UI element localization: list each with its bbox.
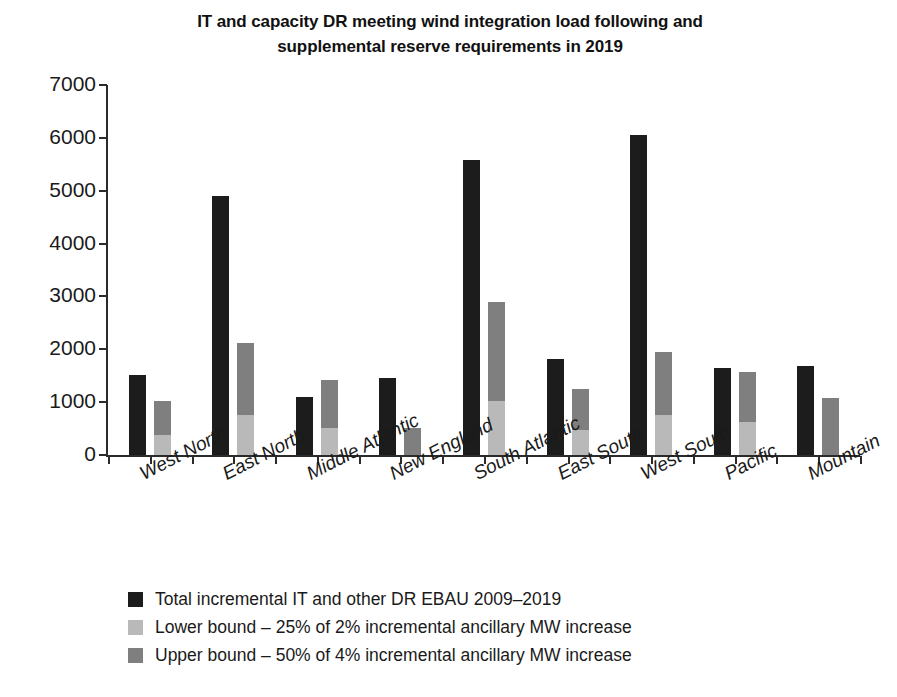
- bar-segment-upper-bound: [488, 302, 505, 401]
- x-axis-tick: [275, 456, 277, 464]
- legend-swatch-icon: [128, 592, 143, 607]
- y-axis-tick-label: 6000: [49, 125, 96, 149]
- bar-group: [359, 85, 443, 455]
- y-axis-tick-label: 5000: [49, 178, 96, 202]
- bar-group: [192, 85, 276, 455]
- x-axis-category-label: Pacific: [721, 465, 731, 485]
- bar-bounds-stacked: [154, 401, 171, 455]
- bar-segment-upper-bound: [822, 398, 839, 455]
- y-axis-tick: [99, 295, 107, 297]
- bar-group: [609, 85, 693, 455]
- x-axis-tick: [442, 456, 444, 464]
- x-axis-tick: [108, 456, 110, 464]
- x-axis-tick: [735, 456, 737, 464]
- chart-title-line-1: IT and capacity DR meeting wind integrat…: [150, 10, 750, 35]
- x-axis-tick: [693, 456, 695, 464]
- x-axis-tick: [192, 456, 194, 464]
- x-axis-tick: [776, 456, 778, 464]
- bar-group: [526, 85, 610, 455]
- x-axis-tick: [818, 456, 820, 464]
- bar-segment-lower-bound: [321, 428, 338, 455]
- bar-total-incremental: [212, 196, 229, 455]
- legend-swatch-icon: [128, 620, 143, 635]
- legend-item-label: Upper bound – 50% of 4% incremental anci…: [155, 645, 632, 666]
- x-axis-tick: [150, 456, 152, 464]
- bar-bounds-stacked: [739, 372, 756, 456]
- y-axis-tick: [99, 84, 107, 86]
- x-axis-tick: [568, 456, 570, 464]
- bar-total-incremental: [797, 366, 814, 455]
- x-axis-tick: [526, 456, 528, 464]
- legend-item-label: Total incremental IT and other DR EBAU 2…: [155, 589, 561, 610]
- x-axis-tick: [359, 456, 361, 464]
- x-axis-tick: [400, 456, 402, 464]
- bar-bounds-stacked: [488, 302, 505, 455]
- x-axis-tick: [860, 456, 862, 464]
- bar-total-incremental: [714, 368, 731, 455]
- x-axis-category-label: West North: [136, 465, 146, 485]
- y-axis-tick: [99, 190, 107, 192]
- x-axis-category-label: East South: [554, 465, 564, 485]
- y-axis-tick: [99, 348, 107, 350]
- bar-segment-upper-bound: [154, 401, 171, 435]
- chart-legend: Total incremental IT and other DR EBAU 2…: [128, 585, 728, 669]
- x-axis-category-label: Middle Atlantic: [303, 465, 313, 485]
- bar-bounds-stacked: [572, 389, 589, 455]
- bar-segment-lower-bound: [572, 430, 589, 455]
- bar-group: [776, 85, 860, 455]
- x-axis-tick: [484, 456, 486, 464]
- legend-item: Upper bound – 50% of 4% incremental anci…: [128, 641, 728, 669]
- bar-segment-lower-bound: [154, 435, 171, 455]
- y-axis-tick-label: 7000: [49, 72, 96, 96]
- y-axis-tick: [99, 243, 107, 245]
- chart-figure: IT and capacity DR meeting wind integrat…: [0, 0, 897, 697]
- bar-total-incremental: [630, 135, 647, 455]
- bar-segment-lower-bound: [488, 401, 505, 455]
- bar-segment-upper-bound: [572, 389, 589, 429]
- bar-segment-lower-bound: [237, 415, 254, 455]
- bar-group: [275, 85, 359, 455]
- y-axis-tick: [99, 137, 107, 139]
- bar-bounds-stacked: [321, 380, 338, 455]
- bar-total-incremental: [129, 375, 146, 455]
- bar-segment-lower-bound: [655, 415, 672, 455]
- bar-total-incremental: [547, 359, 564, 455]
- x-axis-tick: [651, 456, 653, 464]
- bar-segment-upper-bound: [655, 352, 672, 415]
- bar-segment-upper-bound: [739, 372, 756, 423]
- y-axis-tick-label: 0: [84, 442, 96, 466]
- y-axis-tick: [99, 401, 107, 403]
- y-axis-tick: [99, 454, 107, 456]
- bar-total-incremental: [296, 397, 313, 455]
- bar-group: [442, 85, 526, 455]
- x-axis-tick: [609, 456, 611, 464]
- bar-group: [108, 85, 192, 455]
- y-axis-tick-label: 1000: [49, 389, 96, 413]
- y-axis-tick-label: 2000: [49, 336, 96, 360]
- x-axis-category-label: West South: [637, 465, 647, 485]
- x-axis-tick: [233, 456, 235, 464]
- legend-item-label: Lower bound – 25% of 2% incremental anci…: [155, 617, 632, 638]
- bar-bounds-stacked: [404, 428, 421, 455]
- bar-total-incremental: [463, 160, 480, 455]
- bar-bounds-stacked: [822, 398, 839, 455]
- legend-item: Total incremental IT and other DR EBAU 2…: [128, 585, 728, 613]
- x-axis-category-label: East North: [219, 465, 229, 485]
- bar-bounds-stacked: [655, 352, 672, 455]
- chart-title-line-2: supplemental reserve requirements in 201…: [150, 35, 750, 60]
- plot-area: 01000200030004000500060007000: [108, 85, 860, 455]
- x-axis-tick: [317, 456, 319, 464]
- x-axis-line: [106, 455, 860, 457]
- y-axis-tick-label: 3000: [49, 283, 96, 307]
- bar-segment-lower-bound: [739, 422, 756, 455]
- y-axis-tick-label: 4000: [49, 231, 96, 255]
- bar-total-incremental: [379, 378, 396, 455]
- bar-bounds-stacked: [237, 343, 254, 455]
- bar-segment-upper-bound: [321, 380, 338, 428]
- bar-segment-upper-bound: [237, 343, 254, 415]
- legend-item: Lower bound – 25% of 2% incremental anci…: [128, 613, 728, 641]
- x-axis-category-label: Mountain: [804, 465, 814, 485]
- legend-swatch-icon: [128, 648, 143, 663]
- bar-group: [693, 85, 777, 455]
- bar-segment-upper-bound: [404, 428, 421, 455]
